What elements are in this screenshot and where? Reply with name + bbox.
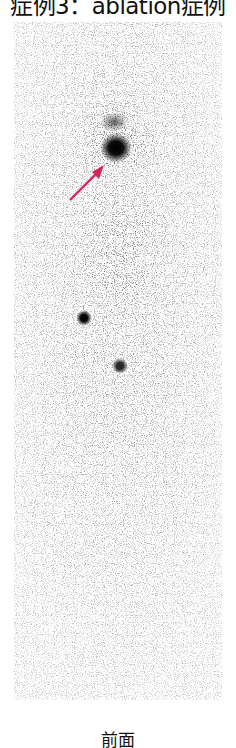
primary-hot-spot <box>100 133 132 163</box>
secondary-hot-spot <box>112 358 128 374</box>
secondary-hot-spot <box>76 310 92 326</box>
scintigraphy-image <box>14 22 222 700</box>
figure-title: 症例3：ablation症例 <box>0 0 236 20</box>
figure-caption: 前面 <box>0 730 236 748</box>
